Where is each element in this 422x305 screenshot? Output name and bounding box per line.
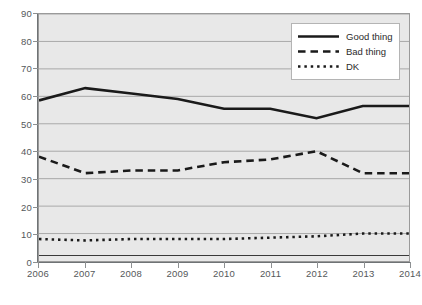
y-tick-mark	[33, 234, 38, 235]
x-tick-mark	[85, 262, 86, 268]
y-tick-label: 0	[27, 257, 32, 268]
y-tick-label: 50	[21, 118, 32, 129]
x-tick-mark	[38, 262, 39, 268]
y-tick-mark	[33, 68, 38, 69]
legend-swatch-dotted	[298, 61, 339, 72]
x-tick-label: 2010	[213, 268, 235, 279]
y-axis-line	[37, 13, 38, 263]
x-tick-label: 2014	[399, 268, 421, 279]
x-tick-label: 2013	[353, 268, 375, 279]
line-chart: 0102030405060708090 20062007200820092010…	[0, 0, 422, 305]
y-tick-label: 80	[21, 35, 32, 46]
y-tick-label: 30	[21, 174, 32, 185]
x-tick-mark	[410, 262, 411, 268]
y-axis-tick-labels: 0102030405060708090	[0, 13, 32, 262]
y-tick-mark	[33, 13, 38, 14]
x-tick-mark	[317, 262, 318, 268]
y-tick-mark	[33, 41, 38, 42]
series-line-bad-thing	[39, 151, 409, 173]
x-tick-label: 2006	[27, 268, 49, 279]
x-tick-mark	[178, 262, 179, 268]
legend-swatch-solid	[298, 31, 339, 42]
y-tick-label: 20	[21, 201, 32, 212]
y-tick-mark	[33, 151, 38, 152]
y-tick-mark	[33, 96, 38, 97]
series-line-dk	[39, 234, 409, 241]
legend-label: Good thing	[346, 31, 392, 42]
legend: Good thingBad thingDK	[291, 23, 400, 80]
x-tick-mark	[224, 262, 225, 268]
y-tick-label: 90	[21, 8, 32, 19]
x-tick-label: 2007	[74, 268, 96, 279]
x-axis-tick-labels: 200620072008200920102011201220132014	[38, 268, 410, 290]
legend-swatch-dashed	[298, 46, 339, 57]
x-tick-label: 2009	[167, 268, 189, 279]
x-tick-label: 2012	[306, 268, 328, 279]
series-line-good-thing	[39, 88, 409, 118]
y-tick-mark	[33, 124, 38, 125]
y-tick-label: 40	[21, 146, 32, 157]
legend-entry: Good thing	[298, 29, 392, 44]
legend-entry: DK	[298, 59, 392, 74]
x-tick-label: 2011	[260, 268, 281, 279]
y-tick-mark	[33, 179, 38, 180]
legend-label: DK	[346, 61, 359, 72]
x-tick-mark	[364, 262, 365, 268]
y-tick-label: 70	[21, 63, 32, 74]
y-tick-label: 10	[21, 229, 32, 240]
x-tick-mark	[271, 262, 272, 268]
x-tick-mark	[131, 262, 132, 268]
legend-entry: Bad thing	[298, 44, 392, 59]
y-tick-mark	[33, 207, 38, 208]
x-tick-label: 2008	[120, 268, 142, 279]
y-tick-label: 60	[21, 91, 32, 102]
legend-label: Bad thing	[346, 46, 386, 57]
